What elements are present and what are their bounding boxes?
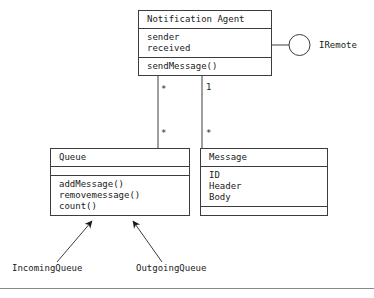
class-attributes-compartment: sender received — [139, 28, 271, 57]
class-attributes-compartment: ID Header Body — [201, 166, 327, 206]
attribute-row: Header — [209, 181, 320, 192]
lollipop-interface-circle — [289, 35, 310, 56]
operation-row: count() — [59, 201, 182, 212]
page-divider-rule — [0, 288, 374, 289]
class-operations-compartment — [201, 206, 327, 215]
class-operations-compartment: addMessage() removemessage() count() — [51, 175, 189, 215]
operation-row: sendMessage() — [147, 61, 264, 72]
attribute-row: Body — [209, 192, 320, 203]
class-name-compartment: Message — [201, 149, 327, 166]
class-box-message[interactable]: Message ID Header Body — [200, 148, 328, 216]
attribute-row: ID — [209, 170, 320, 181]
interface-label-iremote: IRemote — [319, 40, 357, 51]
attribute-row: sender — [147, 32, 264, 43]
class-name-compartment: Queue — [51, 149, 189, 166]
multiplicity-agent-queue-target: * — [161, 128, 166, 138]
class-operations-compartment: sendMessage() — [139, 57, 271, 75]
multiplicity-agent-queue-source: * — [161, 84, 166, 94]
operation-row: removemessage() — [59, 190, 182, 201]
subclass-label-incomingqueue: IncomingQueue — [12, 263, 82, 274]
class-name-label: Queue — [59, 152, 182, 163]
multiplicity-agent-message-target: * — [206, 128, 211, 138]
class-name-label: Notification Agent — [147, 14, 264, 25]
operation-row: addMessage() — [59, 179, 182, 190]
generalization-incomingqueue — [57, 221, 92, 262]
uml-diagram-canvas: Notification Agent sender received sendM… — [0, 0, 374, 298]
class-box-queue[interactable]: Queue addMessage() removemessage() count… — [50, 148, 190, 216]
subclass-label-outgoingqueue: OutgoingQueue — [136, 263, 206, 274]
class-name-compartment: Notification Agent — [139, 11, 271, 28]
class-name-label: Message — [209, 152, 320, 163]
generalization-outgoingqueue — [133, 221, 162, 262]
multiplicity-agent-message-source: 1 — [206, 82, 211, 92]
class-box-notification-agent[interactable]: Notification Agent sender received sendM… — [138, 10, 272, 76]
class-attributes-compartment — [51, 166, 189, 175]
attribute-row: received — [147, 43, 264, 54]
